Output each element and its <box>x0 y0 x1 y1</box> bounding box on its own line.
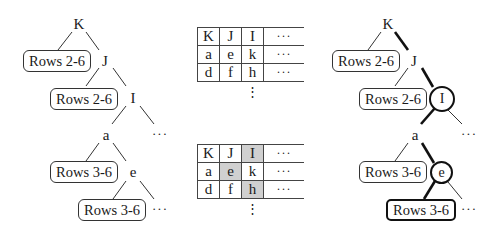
node-label: e <box>438 165 444 181</box>
cell: e <box>220 46 242 64</box>
cell: f <box>220 181 242 199</box>
leaf-rows-highlighted: Rows 3-6 <box>386 199 456 221</box>
cell: d <box>198 181 220 199</box>
node-i-highlighted: I <box>429 86 455 112</box>
leaf-rows: Rows 2-6 <box>50 88 118 110</box>
cell-ellipsis: ··· <box>264 46 305 64</box>
node-j: J <box>411 53 417 69</box>
node-e-highlighted: e <box>430 161 453 184</box>
ellipsis: ··· <box>461 201 477 217</box>
cell-highlighted: I <box>242 145 264 163</box>
cell-highlighted: e <box>220 163 242 181</box>
cell: K <box>198 28 220 46</box>
cell: I <box>242 28 264 46</box>
table-row: K J I ··· <box>198 28 305 46</box>
ellipsis: ··· <box>152 201 168 217</box>
cell: k <box>242 46 264 64</box>
cell: J <box>220 28 242 46</box>
cell: h <box>242 64 264 82</box>
vertical-ellipsis: ⋮ <box>246 206 254 212</box>
table-row: a e k ··· <box>198 46 305 64</box>
table-row: d f h ··· <box>198 181 305 199</box>
leaf-rows: Rows 2-6 <box>359 88 427 110</box>
leaf-rows: Rows 3-6 <box>78 199 146 221</box>
ellipsis: ··· <box>461 126 477 142</box>
leaf-rows: Rows 2-6 <box>23 50 91 72</box>
cell-ellipsis: ··· <box>264 64 305 82</box>
cell-ellipsis: ··· <box>264 163 305 181</box>
cell: a <box>198 163 220 181</box>
cell-ellipsis: ··· <box>264 145 305 163</box>
node-e: e <box>130 164 137 180</box>
cell: f <box>220 64 242 82</box>
leaf-rows: Rows 2-6 <box>332 50 400 72</box>
node-k: K <box>74 16 85 32</box>
cell-highlighted: h <box>242 181 264 199</box>
table-row: K J I ··· <box>198 145 305 163</box>
table-row: d f h ··· <box>198 64 305 82</box>
node-a: a <box>103 127 110 143</box>
node-label: I <box>440 91 445 107</box>
table-row: a e k ··· <box>198 163 305 181</box>
leaf-rows: Rows 3-6 <box>50 161 118 183</box>
leaf-rows: Rows 3-6 <box>359 161 427 183</box>
cell: k <box>242 163 264 181</box>
node-i: I <box>131 90 136 106</box>
table-highlighted: K J I ··· a e k ··· d f h ··· <box>197 144 304 199</box>
cell: J <box>220 145 242 163</box>
ellipsis: ··· <box>152 126 168 142</box>
cell-ellipsis: ··· <box>264 181 305 199</box>
node-k: K <box>383 16 394 32</box>
table-unsorted: K J I ··· a e k ··· d f h ··· <box>197 27 304 82</box>
cell: K <box>198 145 220 163</box>
cell: d <box>198 64 220 82</box>
node-j: J <box>102 53 108 69</box>
node-a: a <box>412 127 419 143</box>
cell-ellipsis: ··· <box>264 28 305 46</box>
vertical-ellipsis: ⋮ <box>246 89 254 95</box>
cell: a <box>198 46 220 64</box>
